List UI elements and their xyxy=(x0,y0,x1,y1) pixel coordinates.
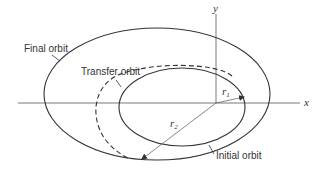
r1-vector xyxy=(216,97,244,103)
final-orbit-leader xyxy=(52,55,60,61)
initial-orbit-label: Initial orbit xyxy=(216,150,262,161)
final-orbit-label: Final orbit xyxy=(24,43,68,54)
orbit-transfer-diagram: x y r1 r2 Final orbit Transfer orbit Ini… xyxy=(0,0,321,172)
r1-label: r1 xyxy=(222,85,230,99)
final-orbit xyxy=(44,28,270,160)
x-axis-label: x xyxy=(303,96,309,108)
r2-vector xyxy=(142,103,216,159)
y-axis-label: y xyxy=(212,2,218,14)
initial-orbit xyxy=(119,68,245,146)
transfer-orbit-leader xyxy=(116,80,121,87)
r2-label: r2 xyxy=(170,117,178,131)
transfer-orbit-label: Transfer orbit xyxy=(81,66,140,77)
